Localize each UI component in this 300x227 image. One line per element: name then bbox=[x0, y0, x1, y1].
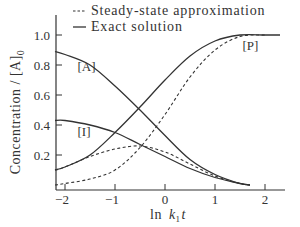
x-tick-label: 2 bbox=[262, 192, 269, 207]
y-tick-label: 0.4 bbox=[34, 118, 51, 133]
y-axis-label: Concentration / [A]0 bbox=[8, 50, 26, 175]
curve-p-exact bbox=[55, 35, 280, 170]
x-tick-label: 1 bbox=[212, 192, 219, 207]
y-tick-label: 0.6 bbox=[34, 88, 51, 103]
legend-label-steady-state: Steady-state approximation bbox=[91, 3, 265, 18]
x-axis-label: lnk1t bbox=[150, 207, 187, 224]
plot-area bbox=[55, 35, 280, 185]
x-tick-label: 0 bbox=[162, 192, 169, 207]
curve-label-a: [A] bbox=[78, 59, 96, 74]
x-tick-label: −2 bbox=[55, 192, 69, 207]
x-tick-label: −1 bbox=[105, 192, 119, 207]
chart: Steady-state approximation Exact solutio… bbox=[0, 0, 300, 227]
y-tick-label: 1.0 bbox=[34, 28, 50, 43]
legend-label-exact: Exact solution bbox=[91, 19, 183, 34]
x-ticks: −2−1012 bbox=[55, 184, 268, 207]
curve-label-i: [I] bbox=[78, 124, 91, 139]
legend: Steady-state approximation Exact solutio… bbox=[73, 3, 265, 34]
y-tick-label: 0.2 bbox=[34, 148, 50, 163]
curve-p-steady-state bbox=[55, 35, 265, 185]
y-ticks: 0.20.40.60.81.0 bbox=[34, 28, 62, 163]
curve-label-p: [P] bbox=[243, 38, 259, 53]
y-tick-label: 0.8 bbox=[34, 58, 50, 73]
curve-labels: [A][I][P] bbox=[78, 38, 259, 139]
